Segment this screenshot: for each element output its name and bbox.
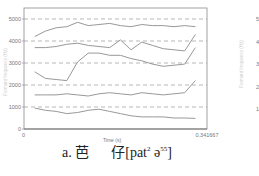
secondary-y-axis-title: Formant frequency (Hz) [239,40,244,88]
caption-ipa-mid: ə [150,145,160,160]
caption-prefix: a. [62,145,72,160]
secondary-y-tick-label: 5 [256,16,259,22]
x-tick-start: 0 [22,132,25,138]
y-tick-label: 2000 [9,82,21,88]
caption-ipa-open: [pat [125,145,147,160]
caption-char2: 仔 [111,145,125,160]
y-tick-label: 3000 [9,60,21,66]
formant-line-f1 [35,108,196,118]
caption-ipa-close: ] [167,145,172,160]
formant-line-f5 [35,22,196,36]
y-tick-label: 4000 [9,38,21,44]
y-tick-label: 5000 [9,16,21,22]
secondary-y-tick-label: 3 [256,61,259,67]
y-tick-label: 0 [18,126,21,132]
secondary-y-tick-label: 4 [256,39,259,45]
formant-line-f4 [35,34,196,51]
figure-caption: a. 芭仔[pat2 ə55] [62,141,172,161]
x-tick-end: 0.341667 [196,132,219,138]
y-axis-title: Formant frequency (Hz) [3,48,8,96]
formant-tracks [35,22,196,118]
secondary-y-tick-label: 1 [256,106,259,112]
formant-line-f3 [35,48,196,81]
formant-line-f2 [35,81,196,96]
secondary-y-tick-label: 2 [256,84,259,90]
y-tick-label: 1000 [9,104,21,110]
caption-char1: 芭 [75,145,89,160]
secondary-chart-partial: Formant frequency (Hz) 54321 [239,16,259,112]
y-axis-ticks: 010002000300040005000 [9,16,24,132]
gridlines [24,19,207,107]
